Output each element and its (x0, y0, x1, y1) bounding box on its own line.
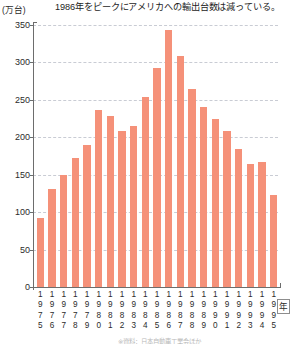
x-axis-tick-label: 1976 (47, 290, 58, 332)
x-axis-line (33, 287, 281, 288)
x-axis-tick-label: 1991 (222, 290, 233, 332)
x-axis-tick-label: 1977 (58, 290, 69, 332)
x-axis-tick-label: 1975 (35, 290, 46, 332)
bar (212, 119, 220, 287)
bar (95, 110, 103, 287)
x-axis-tick-label: 1992 (233, 290, 244, 332)
y-axis-tick-label: 300 (2, 57, 30, 67)
x-axis-tick-label: 1988 (187, 290, 198, 332)
x-axis-tick-label: 1983 (128, 290, 139, 332)
x-axis-tick-label: 1990 (210, 290, 221, 332)
bar (177, 56, 185, 287)
bar (235, 149, 243, 287)
bar (188, 89, 196, 287)
y-axis-tick-label: 350 (2, 20, 30, 30)
bar (258, 162, 266, 287)
bar-series (33, 22, 278, 287)
x-axis-tick-label: 1994 (257, 290, 268, 332)
bar (118, 131, 126, 287)
y-axis-tick-label: 100 (2, 207, 30, 217)
x-axis-tick-label: 1985 (152, 290, 163, 332)
x-axis-tick-label: 1989 (198, 290, 209, 332)
x-axis-tick-label: 1984 (140, 290, 151, 332)
x-axis-tick-label: 1987 (175, 290, 186, 332)
y-axis-tick-label: 50 (2, 245, 30, 255)
x-axis-tick-labels: 1975197619771978197919801981198219831984… (33, 290, 281, 336)
x-axis-tick-label: 1982 (117, 290, 128, 332)
bar (223, 131, 231, 287)
bar (165, 30, 173, 287)
bar (72, 158, 80, 288)
y-axis-tick-label: 150 (2, 170, 30, 180)
x-axis-tick-label: 1978 (70, 290, 81, 332)
x-axis-tick-label: 1986 (163, 290, 174, 332)
y-axis-tick-label: 200 (2, 132, 30, 142)
bar (142, 97, 150, 287)
bar (48, 189, 56, 287)
bar (130, 126, 138, 287)
x-axis-unit-label: 年 (277, 299, 290, 314)
y-axis-tick-label: 0 (2, 282, 30, 292)
bar (200, 107, 208, 287)
y-axis-tick-mark (30, 287, 34, 288)
bar (247, 164, 255, 288)
x-axis-tick-label: 1979 (82, 290, 93, 332)
y-axis-unit-label: (万台) (2, 3, 26, 15)
bar-chart: (万台) 1986年をピークにアメリカへの輸出台数は減っている。 0501001… (0, 0, 293, 345)
x-axis-tick-label: 1980 (93, 290, 104, 332)
x-axis-tick-label: 1981 (105, 290, 116, 332)
bar (60, 175, 68, 287)
bar (37, 218, 45, 287)
bar (153, 68, 161, 287)
source-note: ※資料：日本自動車工業会ほか (118, 337, 293, 344)
bar (107, 116, 115, 287)
x-axis-right-tick (280, 283, 281, 288)
chart-title: 1986年をピークにアメリカへの輸出台数は減っている。 (55, 1, 291, 13)
x-axis-tick-label: 1993 (245, 290, 256, 332)
y-axis-tick-label: 250 (2, 95, 30, 105)
bar (83, 145, 91, 287)
bar (270, 195, 278, 287)
